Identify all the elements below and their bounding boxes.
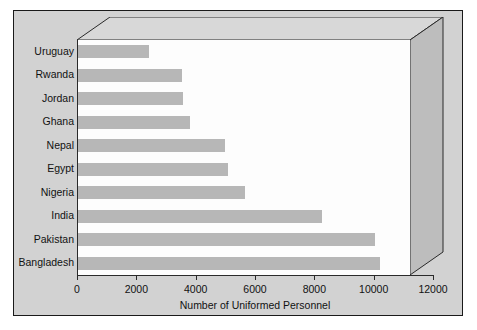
x-axis-tick-label: 6000 [243, 283, 266, 295]
plot-box-top-face [77, 17, 443, 40]
bar [78, 92, 183, 105]
plot-box-right-face [410, 17, 444, 275]
x-axis-title: Number of Uniformed Personnel [77, 299, 433, 311]
y-axis-labels: UruguayRwandaJordanGhanaNepalEgyptNigeri… [14, 40, 74, 275]
x-axis-tick [77, 275, 78, 280]
x-axis-tick [196, 275, 197, 280]
x-axis-tick-label: 4000 [184, 283, 207, 295]
x-axis-tick-label: 10000 [359, 283, 388, 295]
x-axis-tick-label: 12000 [418, 283, 447, 295]
x-axis-tick-label: 0 [74, 283, 80, 295]
plot-area [77, 40, 410, 275]
y-axis-label: Nepal [14, 140, 74, 151]
bar [78, 163, 228, 176]
bar [78, 210, 322, 223]
bar [78, 69, 182, 82]
x-axis-tick [433, 275, 434, 280]
y-axis-label: India [14, 210, 74, 221]
x-axis-tick-label: 2000 [125, 283, 148, 295]
y-axis-label: Bangladesh [14, 257, 74, 268]
x-axis-tick [136, 275, 137, 280]
y-axis-label: Nigeria [14, 187, 74, 198]
bar [78, 257, 380, 270]
x-axis-tick [314, 275, 315, 280]
y-axis-label: Egypt [14, 163, 74, 174]
y-axis-label: Jordan [14, 93, 74, 104]
chart-figure: UruguayRwandaJordanGhanaNepalEgyptNigeri… [0, 0, 477, 330]
x-axis-tick [255, 275, 256, 280]
y-axis-label: Ghana [14, 116, 74, 127]
x-axis-tick-label: 8000 [303, 283, 326, 295]
y-axis-label: Rwanda [14, 69, 74, 80]
x-axis-tick [374, 275, 375, 280]
bar [78, 233, 375, 246]
bar [78, 116, 190, 129]
bar [78, 186, 245, 199]
y-axis-label: Uruguay [14, 46, 74, 57]
bar [78, 139, 225, 152]
bar-series [78, 40, 410, 275]
y-axis-label: Pakistan [14, 234, 74, 245]
bar [78, 45, 149, 58]
